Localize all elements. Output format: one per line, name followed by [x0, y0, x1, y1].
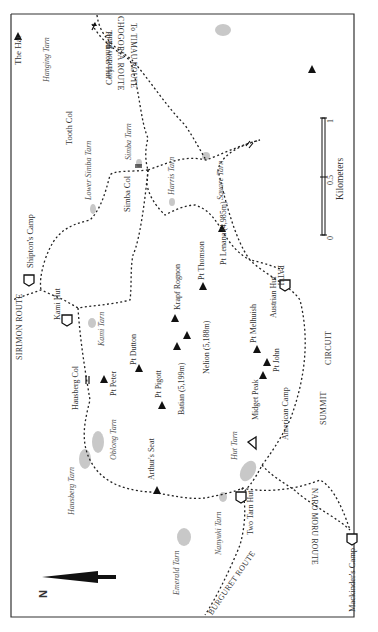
thomson-peak-icon	[199, 282, 207, 290]
scale-unit-label: Kilometers	[336, 158, 346, 200]
map-frame	[11, 14, 178, 152]
naro-moru-route-label: NARO MORU ROUTE	[311, 488, 319, 565]
kami-tarn-label: Kami Tarn	[98, 312, 106, 346]
kami-tarn-shape	[88, 318, 96, 328]
pt-john-label: Pt John	[273, 348, 281, 372]
north-label: N	[38, 590, 49, 598]
arthurs-seat-label: Arthur's Seat	[148, 438, 156, 480]
hut-tarn-label: Hut Tarn	[231, 431, 239, 460]
simba-tarn-shape	[136, 159, 142, 167]
coryndon-peak-label: Coryndon Peak	[105, 32, 114, 85]
tooth-col-label: Tooth Col	[65, 111, 74, 145]
kami-hut-label: Kami Hut	[54, 288, 62, 320]
hut-tarn-shape	[236, 458, 259, 484]
austrian-hut-label: Austrian Hut	[270, 276, 278, 318]
midget-peak-label: Midget Peak	[252, 379, 260, 420]
pt-lenana-label: Pt Lenana (4,985m)	[220, 201, 228, 265]
simba-col-label: Simba Col	[123, 176, 132, 212]
emerald-tarn-shape	[177, 528, 191, 546]
hanging-tarn-shape	[215, 24, 231, 36]
melhuish-peak-icon	[253, 345, 261, 353]
shiptons-camp-hut-icon[interactable]	[24, 275, 34, 286]
batian-peak-icon	[173, 342, 181, 350]
nanyuki-tarn-label: Nanyuki Tarn	[215, 512, 223, 556]
batian-label: Batian (5,199m)	[178, 363, 186, 415]
john-peak-icon	[263, 358, 271, 366]
simba-tarn-label: Simba Tarn	[125, 123, 133, 160]
two-tarn-to-naro-trail	[242, 480, 350, 530]
american-camp-icon[interactable]	[248, 437, 256, 449]
nelion-peak-icon	[183, 331, 191, 339]
midget-peak-icon	[259, 371, 267, 379]
pt-thomson-label: Pt Thomson	[198, 241, 206, 280]
pt-pigott-label: Pt Pigott	[155, 370, 163, 398]
pigott-peak-icon	[158, 401, 166, 409]
mackinders-camp-label: Mackinder's Camp	[348, 548, 357, 612]
lower-simba-tarn-shape	[90, 204, 96, 214]
scale-tick-1: 1	[327, 119, 335, 123]
oblong-tarn-shape	[92, 431, 104, 453]
nelion-label: Nelion (5,188m)	[203, 321, 211, 374]
hausberg-col-label: Hausberg Col	[72, 366, 80, 410]
pt-melhuish-label: Pt Melhuish	[250, 304, 258, 343]
sirimon-route-label: SIRIMON ROUTE	[16, 294, 24, 360]
square-tarn-label: Square Tarn	[217, 161, 225, 200]
peter-peak-icon	[100, 375, 108, 383]
mackinders-camp-hut-icon[interactable]	[347, 534, 357, 545]
timau-route-label: To TIMAU ROUTE	[130, 23, 138, 88]
summit-label: SUMMIT	[320, 391, 328, 425]
peaks	[14, 32, 316, 494]
hanging-tarn-label: Hanging Tarn	[43, 37, 51, 82]
harris-tarn-shape	[169, 198, 175, 206]
summit-circuit-label: CIRCUIT	[325, 331, 333, 365]
two-tarn-hut-icon[interactable]	[236, 492, 246, 503]
pt-dutton-label: Pt Dutton	[130, 334, 138, 365]
krapf-rognon-label: Krapf Rognon	[174, 264, 182, 310]
american-camp-label: American Camp	[282, 387, 290, 440]
dutton-peak-icon	[135, 364, 143, 372]
tooth-col-icon	[249, 143, 253, 148]
oblong-tarn-label: Oblong Tarn	[110, 419, 118, 460]
the-hat-label: The Hat	[14, 36, 23, 65]
north-arrow-icon	[42, 571, 116, 583]
kami-hut-icon[interactable]	[62, 315, 72, 326]
scale-tick-0-5: 0.5	[327, 175, 335, 185]
simba-col-trail	[147, 170, 222, 230]
pt-peter-label: Pt Peter	[110, 371, 118, 396]
hausberg-tarn-label: Hausberg Tarn	[68, 467, 76, 515]
arthurs-seat-peak-icon	[153, 486, 161, 494]
two-tarn-hut-label: Two Tarn Hut	[247, 490, 255, 535]
coryndon-peak-icon	[308, 65, 316, 73]
emerald-tarn-label: Emerald Tarn	[173, 551, 181, 595]
krapf-peak-icon	[171, 314, 179, 322]
lower-simba-tarn-label: Lower Simba Tarn	[85, 141, 93, 200]
tarns	[79, 24, 260, 546]
chogoria-route-label: CHOGORIA ROUTE	[116, 16, 124, 91]
scale-tick-0: 0	[327, 236, 335, 240]
harris-tarn-label: Harris Tarn	[168, 157, 176, 195]
shiptons-camp-label: Shipton's Camp	[26, 214, 35, 268]
